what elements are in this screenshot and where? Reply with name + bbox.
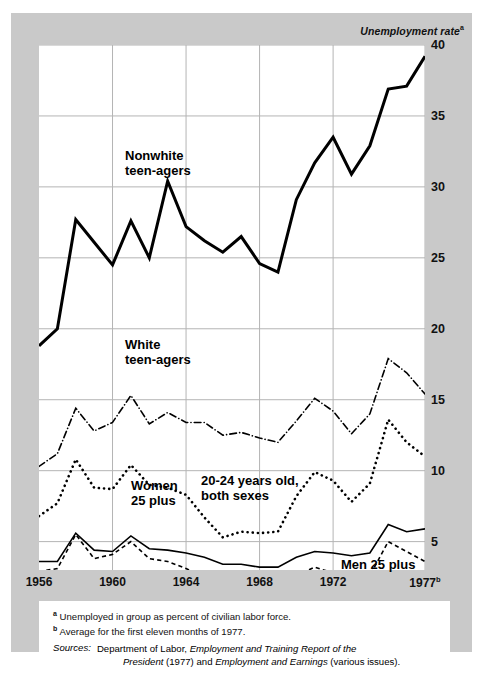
sources-label: Sources: [53, 642, 91, 669]
series-line-0 [39, 56, 425, 345]
y-tick-label: 35 [431, 109, 445, 123]
series-label-line2: 25 plus [131, 494, 178, 509]
footnote-a: a Unemployed in group as percent of civi… [53, 609, 440, 624]
series-label-1: Whiteteen-agers [125, 338, 191, 367]
x-tick-label: 1956 [26, 575, 53, 589]
series-label-line2: teen-agers [125, 353, 191, 368]
y-tick-label: 30 [431, 180, 445, 194]
sources-line2: President (1977) and Employment and Earn… [97, 655, 400, 669]
axis-title-footnote-marker: a [460, 24, 464, 31]
sources-mid: (1977) and [163, 656, 215, 667]
axis-title-text: Unemployment rate [360, 25, 460, 37]
footnote-a-text: Unemployed in group as percent of civili… [60, 611, 291, 622]
series-label-line2: teen-agers [125, 164, 191, 179]
axis-title: Unemployment ratea [360, 24, 464, 37]
series-label-line2: both sexes [201, 489, 299, 504]
footnote-b-marker: b [53, 625, 57, 632]
sources-pre: Department of Labor, [97, 643, 190, 654]
sources-title-1-cont: President [123, 656, 164, 667]
x-tick-label: 1968 [246, 575, 273, 589]
footnote-b: b Average for the first eleven months of… [53, 624, 440, 639]
series-line-1 [39, 359, 425, 467]
y-tick-label: 15 [431, 393, 445, 407]
figure-panel: Unemployment ratea 510152025303540 19561… [11, 13, 472, 652]
sources-text: Department of Labor, Employment and Trai… [97, 642, 400, 669]
x-tick-label: 1960 [99, 575, 126, 589]
y-tick-label: 5 [431, 535, 438, 549]
x-tick-label: 1972 [320, 575, 347, 589]
footnote-a-marker: a [53, 610, 57, 617]
y-tick-label: 20 [431, 322, 445, 336]
x-tick-footnote-marker: b [436, 575, 441, 584]
footnotes-box: a Unemployed in group as percent of civi… [39, 601, 450, 673]
sources-row: Sources: Department of Labor, Employment… [53, 642, 440, 669]
series-label-line1: Men 25 plus [341, 558, 415, 573]
x-tick-label: 1964 [173, 575, 200, 589]
series-label-3: Women25 plus [131, 479, 178, 508]
sources-title-1: Employment and Training Report of the [190, 643, 357, 654]
series-label-4: Men 25 plus [341, 558, 415, 573]
series-label-0: Nonwhiteteen-agers [125, 149, 191, 178]
series-label-line1: Nonwhite [125, 149, 191, 164]
y-tick-label: 40 [431, 38, 445, 52]
y-tick-label: 10 [431, 464, 445, 478]
y-tick-label: 25 [431, 251, 445, 265]
series-label-line1: White [125, 338, 191, 353]
series-label-line1: 20-24 years old, [201, 474, 299, 489]
series-label-2: 20-24 years old,both sexes [201, 474, 299, 503]
sources-title-2: Employment and Earnings [215, 656, 328, 667]
series-label-line1: Women [131, 479, 178, 494]
x-tick-label: 1977b [409, 575, 440, 590]
sources-post: (various issues). [328, 656, 401, 667]
footnote-b-text: Average for the first eleven months of 1… [59, 626, 245, 637]
